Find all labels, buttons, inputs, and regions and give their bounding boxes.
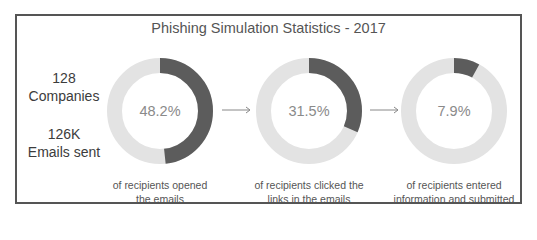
arrow-right-icon bbox=[369, 104, 401, 116]
donut-percent-label: 48.2% bbox=[107, 58, 213, 164]
caption-opened: of recipients opened the emails bbox=[85, 178, 235, 206]
companies-value: 128 bbox=[20, 69, 108, 87]
emails-sent-label: Emails sent bbox=[20, 143, 108, 161]
caption-line: links in the emails bbox=[234, 192, 384, 206]
arrow-right-icon bbox=[221, 104, 253, 116]
donut-percent-label: 7.9% bbox=[401, 58, 507, 164]
companies-stat: 128 Companies bbox=[20, 69, 108, 105]
donut-clicked: 31.5% bbox=[256, 58, 362, 164]
chart-title: Phishing Simulation Statistics - 2017 bbox=[0, 20, 537, 36]
caption-line: of recipients entered bbox=[379, 178, 529, 192]
donut-opened: 48.2% bbox=[107, 58, 213, 164]
caption-line: the emails bbox=[85, 192, 235, 206]
donut-submitted: 7.9% bbox=[401, 58, 507, 164]
donut-percent-label: 31.5% bbox=[256, 58, 362, 164]
caption-line: of recipients clicked the bbox=[234, 178, 384, 192]
emails-sent-stat: 126K Emails sent bbox=[20, 125, 108, 161]
caption-line: of recipients opened bbox=[85, 178, 235, 192]
caption-submitted: of recipients entered information and su… bbox=[379, 178, 529, 206]
caption-clicked: of recipients clicked the links in the e… bbox=[234, 178, 384, 206]
emails-sent-value: 126K bbox=[20, 125, 108, 143]
companies-label: Companies bbox=[20, 87, 108, 105]
caption-line: information and submitted bbox=[379, 192, 529, 206]
